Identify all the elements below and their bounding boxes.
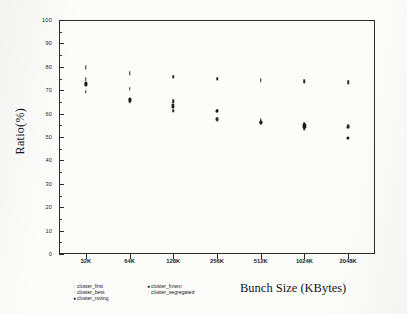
y-axis-tick [59,43,64,44]
legend-item: :cluster_first [72,276,103,282]
data-point [347,81,349,84]
data-point [173,75,175,78]
data-point [347,125,349,128]
legend-item: :cluster_segregated [146,282,194,288]
legend-item: :cluster_best [72,282,104,288]
y-axis-tick [59,114,64,115]
data-point [129,72,131,75]
x-axis-tick-label: 64K [124,258,135,264]
data-point [85,90,87,93]
y-axis-tick [59,90,64,91]
y-axis-tick [59,254,64,255]
x-axis-tick-label: 128K [166,258,180,264]
y-axis-tick-label: 90 [0,40,56,46]
data-point [304,127,306,130]
data-point [216,118,218,121]
data-point [85,66,87,69]
y-axis-tick-label: 20 [0,204,56,210]
chart-legend: :cluster_first:cluster_best●cluster_rovi… [72,276,232,298]
y-axis-tick-label: 70 [0,87,56,93]
y-axis-tick-label: 50 [0,134,56,140]
y-axis-minor-tick [59,125,62,126]
legend-item: ●cluster_fmem [146,276,182,282]
x-axis-tick-label: 2048K [340,258,357,264]
y-axis-tick-label: 40 [0,157,56,163]
data-point [129,87,131,90]
x-axis-tick-label: 32K [81,258,92,264]
data-point [304,80,306,83]
y-axis-minor-tick [59,172,62,173]
legend-item: ●cluster_roving [72,288,109,294]
legend-item-label: cluster_segregated [151,289,194,295]
x-axis-tick-label: 256K [210,258,224,264]
x-axis-title: Bunch Size (KBytes) [240,281,346,296]
y-axis-minor-tick [59,32,62,33]
y-axis-minor-tick [59,219,62,220]
y-axis-tick-label: 60 [0,111,56,117]
y-axis-tick [59,20,64,21]
y-axis-tick [59,184,64,185]
y-axis-tick-label: 0 [0,251,56,257]
y-axis-tick [59,160,64,161]
y-axis-tick-label: 100 [0,17,56,23]
y-axis-minor-tick [59,242,62,243]
y-axis-minor-tick [59,149,62,150]
data-point [216,77,218,80]
y-axis-tick [59,231,64,232]
legend-item-label: cluster_roving [77,295,109,301]
y-axis-minor-tick [59,79,62,80]
y-axis-tick-label: 10 [0,228,56,234]
data-point [129,100,131,103]
data-point [85,78,87,81]
y-axis-tick [59,207,64,208]
y-axis-minor-tick [59,55,62,56]
x-axis-tick-label: 1024K [296,258,313,264]
data-point [173,109,175,112]
y-axis-tick-label: 30 [0,181,56,187]
plot-frame [59,20,375,254]
data-point [260,121,262,124]
y-axis-tick [59,67,64,68]
y-axis-tick-label: 80 [0,64,56,70]
y-axis-minor-tick [59,196,62,197]
data-point [260,78,262,81]
x-axis-tick-label: 512K [254,258,268,264]
y-axis-minor-tick [59,102,62,103]
chart-figure: Ratio(%) Bunch Size (KBytes) 01020304050… [0,0,407,314]
y-axis-tick [59,137,64,138]
